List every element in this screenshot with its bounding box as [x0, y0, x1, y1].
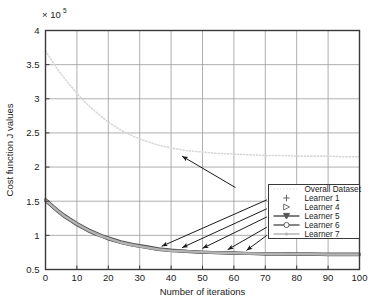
x-tick-label: 80 — [291, 272, 302, 283]
x-tick-label: 30 — [134, 272, 145, 283]
legend-item-label: Learner 1 — [305, 194, 340, 203]
y-tick-label: 2 — [34, 161, 39, 172]
chart-figure: 0102030405060708090100 0.511.522.533.54 … — [0, 0, 373, 306]
legend-marker-dot-icon — [285, 232, 288, 235]
y-tick-label: 1 — [34, 230, 39, 241]
y-tick-label: 3 — [34, 93, 39, 104]
x-tick-label: 20 — [103, 272, 114, 283]
x-tick-label: 60 — [229, 272, 240, 283]
legend-item-label: Learner 5 — [305, 212, 340, 221]
y-tick-label: 4 — [34, 25, 39, 36]
cost-function-line-chart: 0102030405060708090100 0.511.522.533.54 … — [0, 0, 373, 306]
x-axis-title: Number of iterations — [160, 286, 246, 297]
y-axis-title: Cost function J values — [4, 103, 15, 196]
x-tick-label: 70 — [260, 272, 271, 283]
legend-item-label: Learner 4 — [305, 203, 340, 212]
y-tick-label: 2.5 — [26, 127, 39, 138]
x-tick-label: 50 — [197, 272, 208, 283]
legend-item-label: Overall Dataset — [305, 185, 362, 194]
figure-background — [0, 0, 373, 306]
x-tick-label: 10 — [72, 272, 83, 283]
exponent-base: × 10 — [42, 9, 61, 20]
x-tick-label: 90 — [323, 272, 334, 283]
y-tick-label: 1.5 — [26, 196, 39, 207]
x-tick-label: 100 — [352, 272, 368, 283]
exponent-power: 5 — [63, 7, 67, 14]
legend-item-label: Learner 7 — [305, 230, 340, 239]
y-tick-label: 3.5 — [26, 59, 39, 70]
chart-legend: Overall DatasetLearner 1Learner 4Learner… — [269, 185, 362, 240]
x-tick-label: 0 — [43, 272, 48, 283]
y-tick-label: 0.5 — [26, 264, 39, 275]
legend-marker-circle-icon — [284, 222, 289, 227]
legend-item-label: Learner 6 — [305, 221, 340, 230]
x-tick-label: 40 — [166, 272, 177, 283]
